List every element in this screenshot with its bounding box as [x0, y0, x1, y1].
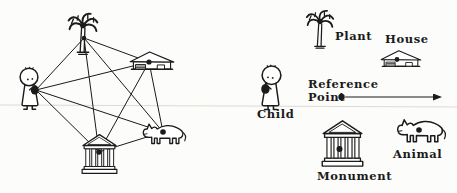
house-label: House	[385, 33, 429, 46]
graph	[20, 14, 185, 174]
scan-artifact-line	[0, 105, 457, 107]
graph-node-dot-animal	[160, 129, 166, 135]
graph-house-icon	[130, 52, 174, 69]
graph-edge-house-animal	[149, 62, 163, 132]
animal-label: Animal	[393, 148, 442, 161]
graph-node-dot-house	[146, 59, 151, 64]
graph-edge-child-plant	[36, 38, 84, 90]
graph-node-dot-monument	[96, 149, 102, 155]
graph-edge-child-animal	[36, 90, 163, 132]
graph-child-icon	[20, 67, 39, 109]
figure: Plant House Child Reference Point Monume…	[0, 0, 457, 193]
legend-house-icon	[381, 51, 420, 67]
monument-label: Monument	[317, 170, 392, 183]
figure-canvas	[0, 0, 457, 193]
legend-child-icon	[261, 65, 281, 109]
graph-edge-child-house	[36, 62, 149, 90]
child-label: Child	[257, 108, 294, 121]
graph-edge-plant-monument	[84, 38, 99, 152]
legend-house-reference-dot	[395, 57, 400, 62]
reference-point-label: Reference Point	[308, 78, 379, 104]
legend-monument-icon	[322, 121, 363, 166]
graph-node-dot-plant	[82, 36, 86, 40]
legend-monument-reference-dot	[337, 146, 343, 152]
legend-animal-reference-dot	[416, 127, 422, 133]
legend-plant-icon	[307, 11, 333, 48]
plant-label: Plant	[335, 30, 372, 43]
